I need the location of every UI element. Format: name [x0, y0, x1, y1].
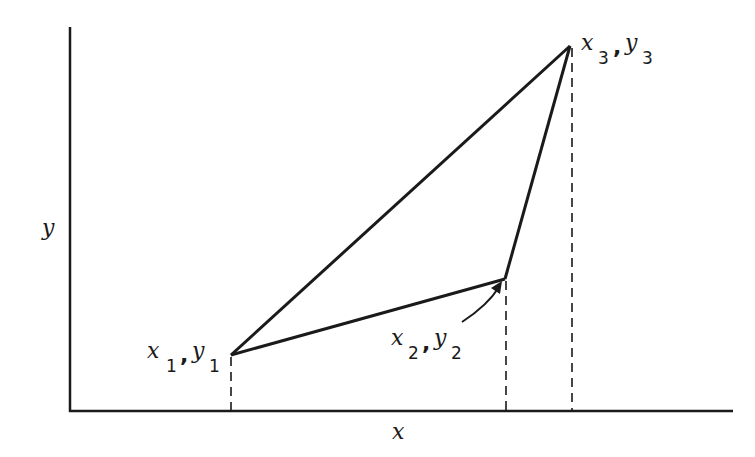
y-axis-label: y: [41, 215, 55, 240]
p2-x-var: x: [391, 325, 404, 350]
arrow-to-p2: [462, 287, 499, 322]
p3-x-sub: 3: [598, 48, 609, 68]
point-label-p2: x 2 , y 2: [391, 325, 462, 363]
p1-x-var: x: [147, 338, 160, 363]
point-label-p1: x 1 , y 1: [147, 338, 220, 376]
p2-sep: ,: [422, 330, 430, 355]
p3-sep: ,: [613, 34, 621, 59]
p2-y-var: y: [433, 325, 447, 350]
triangle-diagram: y x x 1 , y 1 x 2 , y 2 x 3 , y 3: [0, 0, 755, 457]
p3-y-var: y: [624, 30, 638, 55]
p3-x-var: x: [581, 30, 594, 55]
p1-sep: ,: [180, 342, 188, 367]
p1-y-var: y: [191, 338, 205, 363]
point-label-p3: x 3 , y 3: [581, 30, 653, 68]
p1-y-sub: 1: [209, 356, 220, 376]
x-axis-label: x: [392, 419, 405, 444]
p3-y-sub: 3: [642, 48, 653, 68]
p1-x-sub: 1: [166, 356, 177, 376]
edge-p2-p3: [505, 46, 570, 279]
p2-y-sub: 2: [451, 343, 462, 363]
p2-x-sub: 2: [408, 343, 419, 363]
